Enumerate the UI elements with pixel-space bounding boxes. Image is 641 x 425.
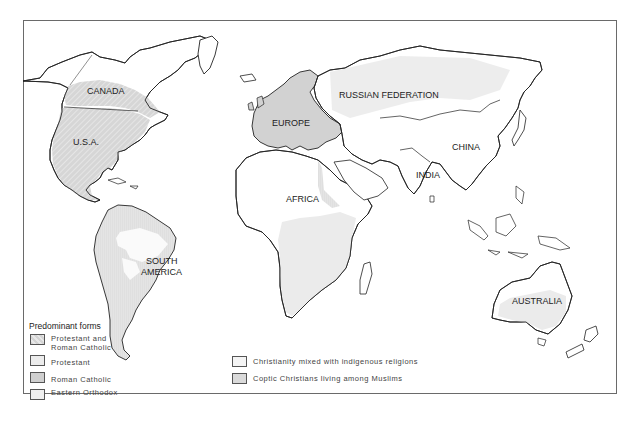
legend-label: Eastern Orthodox [51, 388, 118, 397]
africa [236, 150, 388, 318]
legend-label: Roman Catholic [51, 343, 111, 352]
coptic-swatch [232, 373, 247, 384]
legend-item-protestant-roman-catholic: Protestant and Roman Catholic [30, 334, 111, 352]
legend-label: Coptic Christians living among Muslims [253, 374, 402, 383]
label-india: INDIA [416, 170, 440, 180]
roman-catholic-swatch [30, 372, 45, 383]
label-china: CHINA [452, 142, 480, 152]
australia [492, 262, 598, 358]
legend-title: Predominant forms [29, 321, 101, 331]
legend-item-eastern-orthodox: Eastern Orthodox [30, 389, 118, 400]
legend-item-christianity-mixed: Christianity mixed with indigenous relig… [232, 356, 418, 367]
legend-label: Protestant and [51, 334, 107, 343]
mixed-swatch [232, 356, 247, 367]
label-russian-federation: RUSSIAN FEDERATION [339, 90, 439, 100]
legend-label: Protestant [51, 358, 90, 367]
label-usa: U.S.A. [73, 137, 99, 147]
label-africa: AFRICA [286, 194, 319, 204]
label-america: AMERICA [141, 267, 182, 277]
label-australia: AUSTRALIA [512, 296, 562, 306]
legend-label: Roman Catholic [51, 375, 111, 384]
label-europe: EUROPE [272, 118, 310, 128]
eastern-orthodox-swatch [30, 389, 45, 400]
legend-item-coptic: Coptic Christians living among Muslims [232, 373, 402, 384]
legend-item-protestant: Protestant [30, 355, 90, 367]
label-canada: CANADA [87, 86, 125, 96]
hatched-swatch [30, 334, 45, 345]
legend-label: Christianity mixed with indigenous relig… [253, 357, 418, 366]
legend-item-roman-catholic: Roman Catholic [30, 372, 111, 384]
label-south: SOUTH [146, 256, 178, 266]
north-america [23, 36, 218, 202]
protestant-swatch [30, 355, 45, 366]
